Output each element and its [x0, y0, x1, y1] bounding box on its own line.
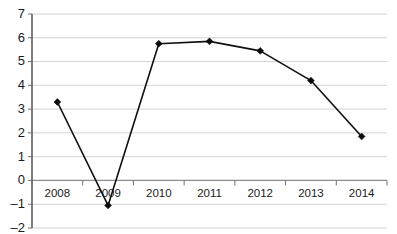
line-chart: 76543210–1–2 200820092010201120122013201…: [0, 0, 397, 234]
data-point-2011: [206, 38, 213, 45]
x-tick-label-2013: 2013: [298, 187, 324, 199]
y-tick-label--2: –2: [11, 220, 25, 234]
data-point-2012: [257, 47, 264, 54]
y-axis: [28, 14, 32, 228]
y-axis-tick-labels: 76543210–1–2: [11, 6, 25, 234]
x-tick-label-2014: 2014: [349, 187, 375, 199]
data-point-2008: [54, 99, 61, 106]
y-tick-label--1: –1: [11, 196, 25, 211]
x-tick-label-2012: 2012: [247, 187, 273, 199]
y-tick-label-0: 0: [18, 172, 25, 187]
data-point-markers: [54, 38, 365, 209]
data-point-2010: [155, 40, 162, 47]
y-tick-label-2: 2: [18, 125, 25, 140]
y-tick-label-4: 4: [18, 77, 25, 92]
y-tick-label-5: 5: [18, 53, 25, 68]
data-point-2009: [105, 202, 112, 209]
x-axis-tick-labels: 2008200920102011201220132014: [45, 187, 375, 199]
x-axis-ticks: [32, 180, 387, 185]
x-tick-label-2008: 2008: [45, 187, 71, 199]
x-tick-label-2010: 2010: [146, 187, 172, 199]
y-tick-label-1: 1: [18, 149, 25, 164]
x-tick-label-2009: 2009: [95, 187, 121, 199]
y-tick-label-7: 7: [18, 6, 25, 21]
x-tick-label-2011: 2011: [197, 187, 222, 199]
y-tick-label-3: 3: [18, 101, 25, 116]
chart-canvas: 76543210–1–2 200820092010201120122013201…: [0, 0, 397, 234]
y-tick-label-6: 6: [18, 30, 25, 45]
